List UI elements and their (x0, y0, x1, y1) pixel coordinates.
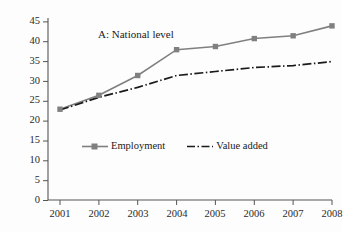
y-tick-label: 10 (18, 154, 40, 165)
y-tick-label: 20 (18, 114, 40, 125)
data-point (252, 36, 257, 41)
data-point (213, 44, 218, 49)
legend-swatch-value-added (187, 142, 213, 151)
y-tick-label: 35 (18, 55, 40, 66)
y-tick-label: 45 (18, 15, 40, 26)
legend-item-employment: Employment (82, 141, 165, 152)
data-point (135, 73, 140, 78)
data-point (290, 33, 295, 38)
legend-item-value-added: Value added (187, 141, 268, 152)
data-point (96, 93, 101, 98)
chart-title: A: National level (98, 28, 174, 40)
x-tick-label: 2001 (40, 208, 80, 219)
series-line-value-added (60, 62, 332, 110)
x-tick-label: 2004 (157, 208, 197, 219)
x-tick-label: 2002 (79, 208, 119, 219)
x-tick-label: 2006 (234, 208, 274, 219)
x-tick-label: 2007 (273, 208, 313, 219)
x-axis-ticks (60, 200, 332, 205)
legend-label-value-added: Value added (216, 141, 268, 152)
y-tick-label: 0 (18, 194, 40, 205)
x-tick-label: 2005 (195, 208, 235, 219)
legend-swatch-employment (82, 142, 108, 151)
y-tick-label: 40 (18, 35, 40, 46)
y-tick-label: 15 (18, 134, 40, 145)
data-point (57, 107, 62, 112)
data-point (329, 23, 334, 28)
x-tick-label: 2003 (118, 208, 158, 219)
y-axis-ticks (43, 22, 48, 201)
x-tick-label: 2008 (312, 208, 347, 219)
chart-legend: Employment Value added (82, 141, 268, 152)
y-tick-label: 5 (18, 174, 40, 185)
legend-label-employment: Employment (111, 141, 165, 152)
data-point (174, 47, 179, 52)
y-tick-label: 30 (18, 75, 40, 86)
y-tick-label: 25 (18, 94, 40, 105)
